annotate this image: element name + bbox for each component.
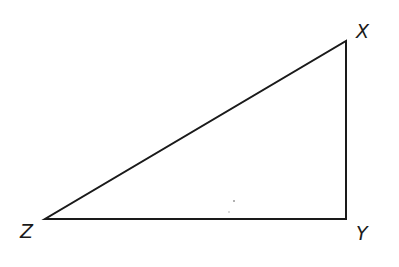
triangle-xyz bbox=[45, 41, 346, 219]
speck-mark bbox=[233, 200, 235, 202]
vertex-label-x: X bbox=[355, 20, 370, 42]
triangle-svg: X Y Z bbox=[0, 0, 399, 267]
vertex-label-y: Y bbox=[356, 222, 369, 244]
triangle-diagram: X Y Z bbox=[0, 0, 399, 267]
vertex-label-z: Z bbox=[19, 220, 34, 242]
speck-mark bbox=[228, 211, 230, 213]
